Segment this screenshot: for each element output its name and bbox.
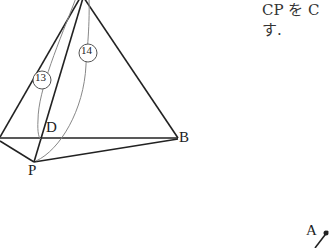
vertex-label-a: A: [306, 222, 317, 239]
path-label-13: 13: [35, 71, 46, 83]
vertex-label-b: B: [179, 129, 189, 146]
path-label-14: 14: [81, 44, 92, 56]
vertex-label-p: P: [28, 162, 36, 179]
text-line-2: す.: [262, 22, 282, 39]
text-line-1: CP を C: [262, 2, 320, 19]
vertex-label-d: D: [46, 119, 57, 136]
